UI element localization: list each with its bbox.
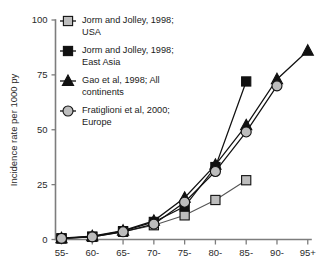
legend-marker-3 [63,106,73,116]
legend-label-line2: USA [82,27,102,37]
legend-item-2: Gao et al, 1998; Allcontinents [60,75,160,97]
data-point-s3-6 [241,127,251,137]
x-tick-label: 80- [209,247,223,258]
x-tick-label: 95+ [300,247,317,258]
y-tick-label: 75 [37,69,48,80]
y-tick-label: 100 [32,14,48,25]
legend-marker-0 [63,16,72,25]
data-point-s3-4 [180,197,190,207]
data-point-s3-2 [118,227,128,237]
x-tick-label: 75- [178,247,192,258]
y-tick-label: 0 [42,234,47,245]
legend-label-line1: Jorm and Jolley, 1998; [82,45,174,55]
data-point-s3-1 [87,232,97,242]
x-axis-ticks: 55-60-65-70-75-80-85-90-95+ [55,240,317,258]
legend-label-line2: East Asia [82,57,121,67]
data-point-s0-6 [242,176,251,185]
data-point-s3-5 [210,166,220,176]
data-point-s3-0 [57,233,67,243]
legend-label-line1: Gao et al, 1998; All [82,75,160,85]
x-tick-label: 90- [270,247,284,258]
legend-item-1: Jorm and Jolley, 1998;East Asia [60,45,174,67]
x-tick-label: 70- [147,247,161,258]
legend-label-line2: Europe [82,117,112,127]
data-point-s3-3 [149,219,159,229]
y-axis-ticks: 0255075100 [32,14,56,245]
x-tick-label: 60- [85,247,99,258]
legend-label-line1: Jorm and Jolley, 1998; [82,15,174,25]
x-tick-label: 65- [116,247,130,258]
data-point-s3-7 [272,81,282,91]
chart-legend: Jorm and Jolley, 1998;USAJorm and Jolley… [60,15,174,127]
legend-item-3: Fratiglioni et al, 2000;Europe [60,105,170,127]
data-point-s0-4 [180,211,189,220]
x-tick-label: 85- [239,247,253,258]
legend-marker-1 [63,46,72,55]
legend-label-line1: Fratiglioni et al, 2000; [82,105,170,115]
y-tick-label: 50 [37,124,48,135]
data-point-s1-6 [242,77,251,86]
data-point-s0-5 [211,195,220,204]
y-axis-title: Incidence rate per 1000 py [8,74,19,187]
x-tick-label: 55- [55,247,69,258]
legend-marker-2 [62,75,73,85]
incidence-rate-chart: 0255075100 55-60-65-70-75-80-85-90-95+ I… [0,0,321,269]
y-tick-label: 25 [37,179,48,190]
legend-item-0: Jorm and Jolley, 1998;USA [60,15,174,37]
legend-label-line2: continents [82,87,124,97]
data-point-s2-8 [302,45,313,55]
chart-canvas: 0255075100 55-60-65-70-75-80-85-90-95+ I… [0,0,321,269]
